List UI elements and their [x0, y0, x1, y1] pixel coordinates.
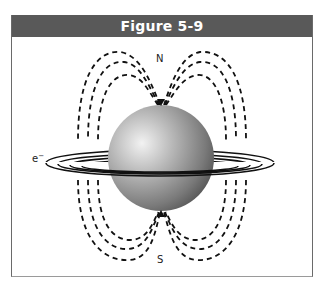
electron-sphere — [108, 105, 214, 211]
electron-spin-diagram: N S e− — [0, 0, 326, 283]
north-pole-label: N — [156, 53, 163, 64]
south-pole-label: S — [157, 254, 163, 265]
electron-label: e− — [32, 152, 44, 164]
